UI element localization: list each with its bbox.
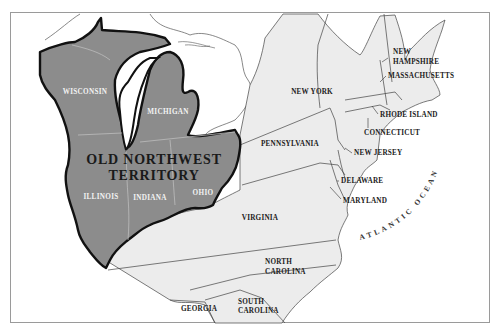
label-south-carolina-1: SOUTH xyxy=(238,298,264,306)
label-north-carolina-1: NORTH xyxy=(265,258,292,266)
label-rhode-island: RHODE ISLAND xyxy=(380,111,438,119)
label-wisconsin: WISCONSIN xyxy=(63,88,108,96)
label-virginia: VIRGINIA xyxy=(242,214,279,222)
label-new-hampshire-1: NEW xyxy=(393,48,411,56)
label-new-york: NEW YORK xyxy=(291,88,333,96)
territory-title-line2: TERRITORY xyxy=(108,168,199,183)
label-ohio: OHIO xyxy=(193,189,214,197)
label-massachusetts: MASSACHUSETTS xyxy=(388,72,454,80)
label-illinois: ILLINOIS xyxy=(83,193,118,201)
label-delaware: DELAWARE xyxy=(341,177,383,185)
label-new-hampshire-2: HAMPSHIRE xyxy=(393,58,439,66)
label-new-jersey: NEW JERSEY xyxy=(354,149,403,157)
label-north-carolina-2: CAROLINA xyxy=(265,268,306,276)
map-canvas: WISCONSIN MICHIGAN ILLINOIS INDIANA OHIO… xyxy=(0,0,499,333)
label-connecticut: CONNECTICUT xyxy=(364,129,420,137)
label-pennsylvania: PENNSYLVANIA xyxy=(261,140,320,148)
label-michigan: MICHIGAN xyxy=(147,108,189,116)
label-maryland: MARYLAND xyxy=(343,197,387,205)
label-south-carolina-2: CAROLINA xyxy=(238,307,279,315)
label-indiana: INDIANA xyxy=(133,194,167,202)
label-georgia: GEORGIA xyxy=(181,305,218,313)
territory-title-line1: OLD NORTHWEST xyxy=(86,152,222,167)
